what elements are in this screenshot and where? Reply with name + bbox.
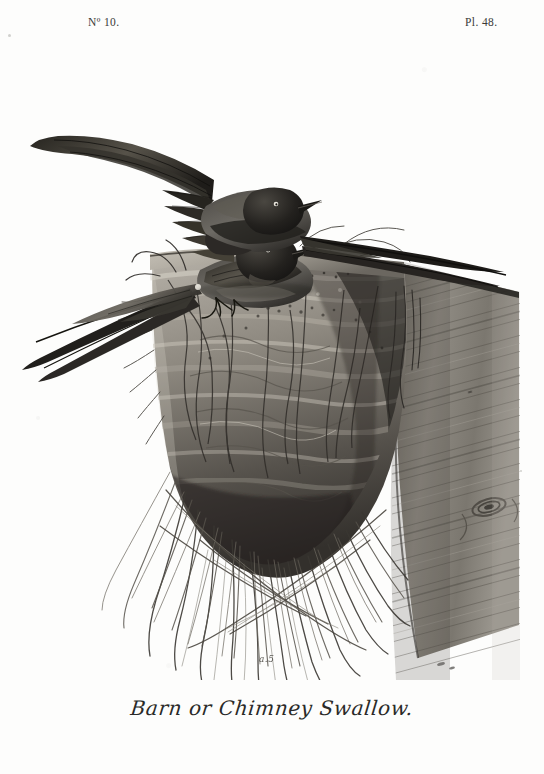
illustration [0, 40, 544, 680]
inscription-mark: a.5 [259, 654, 274, 664]
plate-page: Nº 10. Pl. 48. [0, 0, 544, 774]
wooden-beam [390, 254, 532, 680]
plate-number-right: Pl. 48. [465, 16, 498, 28]
plate-number-left: Nº 10. [88, 16, 120, 28]
paper-speck [8, 34, 11, 37]
plate-caption: Barn or Chimney Swallow. [0, 696, 544, 720]
